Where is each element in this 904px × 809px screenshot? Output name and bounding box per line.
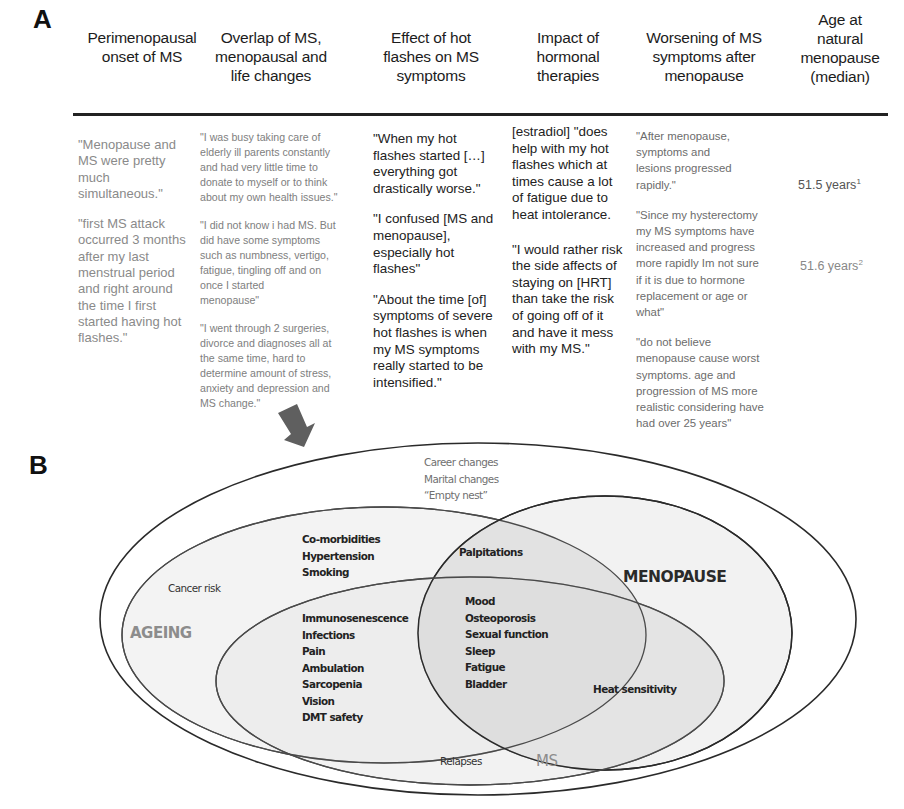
- ageing-menopause-list: Palpitations: [459, 545, 523, 562]
- ageing-cancer-risk: Cancer risk: [168, 581, 220, 598]
- ageing-ms-list: Immunosenescence Infections Pain Ambulat…: [302, 611, 408, 727]
- set-label-ms: MS: [536, 752, 557, 770]
- ageing-comorbidities-list: Co-morbidities Hypertension Smoking: [302, 532, 380, 582]
- ms-only-list: Relapses: [440, 754, 482, 771]
- panel-b-label: B: [29, 450, 48, 481]
- menopause-ms-list: Heat sensitivity: [593, 682, 677, 699]
- set-label-ageing: AGEING: [130, 624, 192, 642]
- down-right-arrow-icon: [278, 404, 315, 447]
- set-label-menopause: MENOPAUSE: [623, 568, 726, 586]
- venn-diagram: [0, 0, 904, 809]
- all-three-overlap-list: Mood Osteoporosis Sexual function Sleep …: [465, 594, 548, 693]
- life-changes-list: Career changes Marital changes “Empty ne…: [424, 455, 499, 505]
